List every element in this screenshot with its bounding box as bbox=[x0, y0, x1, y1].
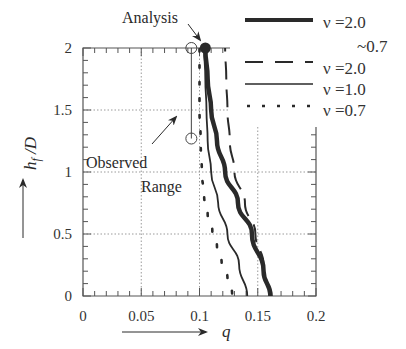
x-tick-label: 0.15 bbox=[245, 308, 271, 324]
legend-label-2: ν =1.0 bbox=[323, 80, 366, 99]
legend-label-0b: ~0.7 bbox=[357, 37, 388, 56]
legend-label-0: ν =2.0 bbox=[323, 13, 366, 32]
y-axis-title: hf /D bbox=[21, 136, 43, 170]
y-tick-label: 2 bbox=[65, 40, 73, 56]
x-tick-label: 0.05 bbox=[128, 308, 154, 324]
x-tick-labels: 00.050.10.150.2 bbox=[79, 308, 325, 324]
legend-label-3: ν =0.7 bbox=[323, 101, 366, 120]
observed-arrow-icon bbox=[152, 117, 176, 144]
legend-label-1: ν =2.0 bbox=[323, 59, 366, 78]
x-tick-label: 0.1 bbox=[190, 308, 209, 324]
x-tick-label: 0.2 bbox=[307, 308, 326, 324]
svg-text:hf /D: hf /D bbox=[21, 136, 43, 170]
x-tick-label: 0 bbox=[79, 308, 87, 324]
annotation-analysis: Analysis bbox=[122, 9, 178, 27]
y-tick-label: 1.5 bbox=[53, 102, 72, 118]
chart: 00.050.10.150.2 00.511.52 Analysis Obser… bbox=[0, 0, 406, 349]
annotation-range: Range bbox=[141, 178, 182, 196]
y-tick-label: 0 bbox=[65, 288, 73, 304]
y-tick-label: 1 bbox=[65, 164, 73, 180]
analysis-arrow-icon bbox=[188, 24, 200, 40]
x-axis-title: q bbox=[222, 322, 231, 341]
y-tick-labels: 00.511.52 bbox=[53, 40, 72, 304]
y-tick-label: 0.5 bbox=[53, 226, 72, 242]
annotation-observed: Observed bbox=[86, 154, 147, 171]
y-axis-title-main: h bbox=[21, 162, 40, 171]
y-axis-title-tail: /D bbox=[21, 136, 40, 158]
legend: ν =2.0 ~0.7 ν =2.0 ν =1.0 ν =0.7 bbox=[245, 13, 388, 120]
analysis-point-marker bbox=[200, 43, 211, 54]
